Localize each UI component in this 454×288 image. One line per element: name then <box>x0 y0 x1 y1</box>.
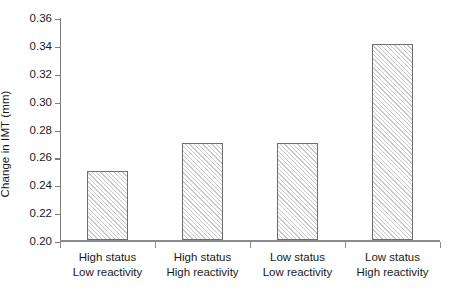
x-tick-mark <box>60 242 61 248</box>
y-tick-label: 0.20 <box>30 236 52 248</box>
x-category-label-line: High reactivity <box>345 265 440 280</box>
bar-chart-figure: Change in IMT (mm) 0.200.220.240.260.280… <box>0 0 454 288</box>
x-category-label-line: High status <box>60 250 155 265</box>
x-category-label: Low statusHigh reactivity <box>345 250 440 280</box>
y-tick-mark <box>55 19 60 20</box>
bar <box>277 143 318 241</box>
x-category-label-line: High status <box>155 250 250 265</box>
x-tick-mark <box>345 242 346 248</box>
plot-area: 0.200.220.240.260.280.300.320.340.36 <box>60 19 440 242</box>
y-axis-title-text: Change in IMT (mm) <box>0 90 11 197</box>
y-tick-mark <box>55 103 60 104</box>
y-tick-mark <box>55 47 60 48</box>
x-category-label: High statusHigh reactivity <box>155 250 250 280</box>
x-category-label-line: Low reactivity <box>60 265 155 280</box>
y-axis-line <box>60 18 61 243</box>
y-tick-label: 0.30 <box>30 97 52 109</box>
y-tick-label: 0.34 <box>30 41 52 53</box>
x-tick-mark <box>440 242 441 248</box>
x-category-label-line: High reactivity <box>155 265 250 280</box>
y-tick-mark <box>55 158 60 159</box>
x-category-label: High statusLow reactivity <box>60 250 155 280</box>
bar <box>87 171 128 241</box>
bar <box>182 143 223 241</box>
x-category-label-line: Low status <box>345 250 440 265</box>
y-tick-mark <box>55 75 60 76</box>
x-category-label-line: Low reactivity <box>250 265 345 280</box>
y-tick-label: 0.24 <box>30 181 52 193</box>
y-tick-label: 0.32 <box>30 69 52 81</box>
x-tick-mark <box>155 242 156 248</box>
y-tick-mark <box>55 131 60 132</box>
x-category-label: Low statusLow reactivity <box>250 250 345 280</box>
y-tick-label: 0.28 <box>30 125 52 137</box>
y-tick-label: 0.36 <box>30 13 52 25</box>
x-tick-mark <box>250 242 251 248</box>
y-tick-mark <box>55 186 60 187</box>
x-category-label-line: Low status <box>250 250 345 265</box>
bar <box>372 44 413 241</box>
y-tick-label: 0.26 <box>30 153 52 165</box>
y-axis-title: Change in IMT (mm) <box>0 0 26 288</box>
y-tick-mark <box>55 214 60 215</box>
y-tick-label: 0.22 <box>30 208 52 220</box>
